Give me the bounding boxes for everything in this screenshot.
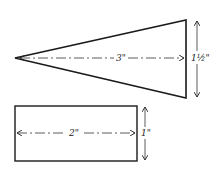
- rectangle-width-label: 2": [68, 128, 79, 138]
- triangle-height-label: 1½": [191, 53, 210, 63]
- triangle-shape: 3" 1½": [15, 20, 210, 98]
- triangle-outline: [15, 20, 186, 98]
- triangle-length-label: 3": [116, 53, 126, 63]
- drawing: 3" 1½" 2" 1": [0, 0, 216, 174]
- rectangle-shape: 2" 1": [15, 106, 151, 161]
- diagram-canvas: 3" 1½" 2" 1": [0, 0, 216, 174]
- rectangle-height-label: 1": [141, 128, 151, 138]
